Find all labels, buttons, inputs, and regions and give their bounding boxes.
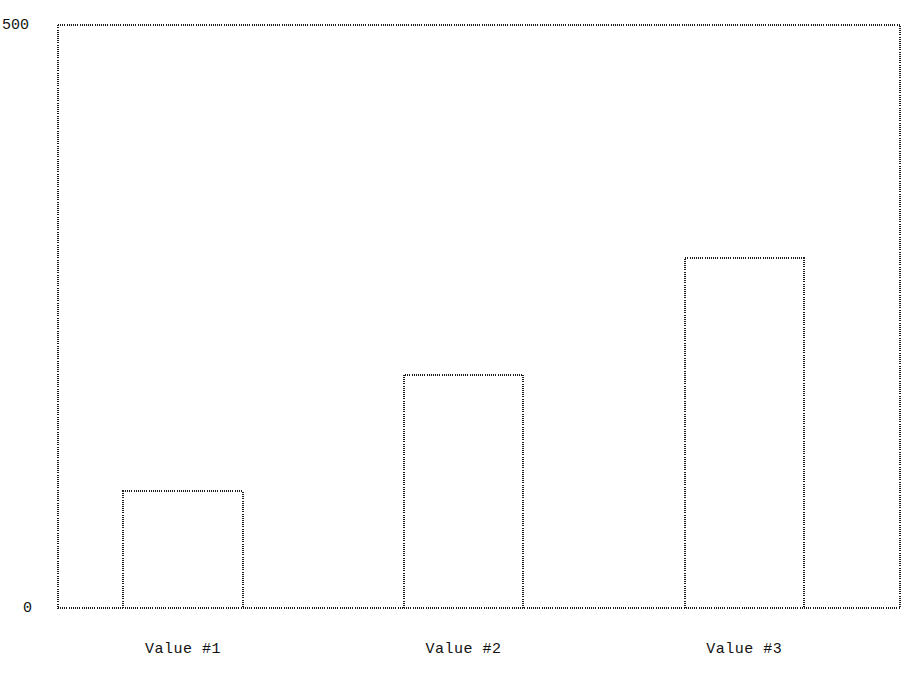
x-axis-label: Value #3 [706,641,782,658]
bar [685,258,804,608]
x-axis-label: Value #1 [145,641,221,658]
bar-chart: 500 0 Value #1Value #2Value #3 [0,0,910,683]
plot-frame [58,25,900,608]
x-axis-label: Value #2 [426,641,502,658]
bar [123,491,242,608]
bars-group [123,258,804,608]
plot-area [0,0,910,683]
bar [404,375,523,608]
